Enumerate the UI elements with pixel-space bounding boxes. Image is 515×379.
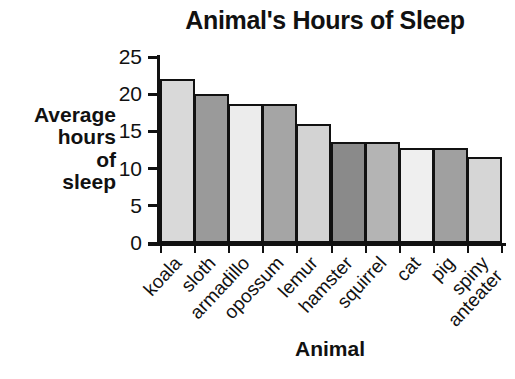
bar-opossum[interactable]: [262, 104, 297, 243]
x-axis-label-line: cat: [392, 252, 425, 285]
y-axis-tick-label-text: 0: [102, 232, 142, 253]
x-axis-tick: [262, 246, 264, 253]
x-axis-tick: [365, 246, 367, 253]
bar-hamster[interactable]: [331, 142, 366, 243]
bar-cat[interactable]: [399, 148, 434, 243]
y-axis-title-line-3: of: [6, 149, 116, 171]
x-axis-line: [148, 243, 506, 246]
bar-sloth[interactable]: [194, 94, 229, 243]
bar-spiny-anteater[interactable]: [467, 157, 502, 243]
bar-koala[interactable]: [160, 79, 195, 243]
bar-armadillo[interactable]: [228, 104, 263, 243]
y-axis-title-line-2: hours: [6, 126, 116, 148]
bar-squirrel[interactable]: [365, 142, 400, 243]
y-axis-title-line-4: sleep: [6, 171, 116, 193]
x-axis-label-cat: cat: [392, 253, 423, 285]
x-axis-tick: [228, 246, 230, 253]
y-axis-tick: [148, 130, 159, 133]
y-axis-tick-label-text: 5: [102, 195, 142, 216]
x-axis-tick: [331, 246, 333, 253]
y-axis-tick: [148, 56, 159, 59]
x-axis-tick: [160, 246, 162, 253]
x-axis-tick: [399, 246, 401, 253]
chart-title: Animal's Hours of Sleep: [140, 8, 510, 33]
y-axis-tick: [148, 93, 159, 96]
y-axis-tick-label-text: 20: [102, 83, 142, 104]
y-axis-tick: [148, 167, 159, 170]
bar-pig[interactable]: [433, 148, 468, 243]
y-axis-title-line-1: Average: [6, 104, 116, 126]
chart-figure: Animal's Hours of Sleep Average hours of…: [0, 0, 515, 379]
x-axis-tick: [194, 246, 196, 253]
x-axis-label-koala: koala: [140, 253, 185, 299]
y-axis-tick-label-text: 25: [102, 46, 142, 67]
x-axis-tick: [501, 246, 503, 253]
plot-area: [160, 57, 501, 243]
x-axis-tick: [296, 246, 298, 253]
bar-lemur[interactable]: [296, 124, 331, 243]
y-axis-tick: [148, 204, 159, 207]
y-axis-title: Average hours of sleep: [6, 104, 116, 194]
y-axis-tick: [148, 242, 159, 245]
y-axis-tick-label-text: 15: [102, 120, 142, 141]
x-axis-title: Animal: [180, 337, 480, 361]
y-axis-tick-label-text: 10: [102, 158, 142, 179]
x-axis-label-line: koala: [139, 252, 185, 300]
x-axis-tick: [433, 246, 435, 253]
x-axis-tick: [467, 246, 469, 253]
